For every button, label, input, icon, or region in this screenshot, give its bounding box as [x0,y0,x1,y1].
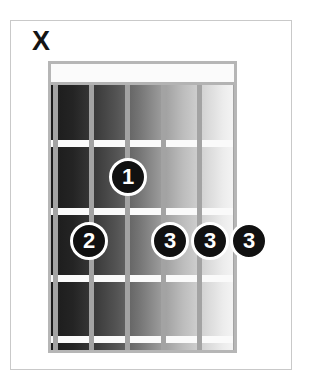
fret-line-2 [51,208,234,215]
string-line-6 [233,85,237,350]
fretboard [48,61,237,353]
finger-dot-string5-fret3[interactable]: 3 [191,222,229,260]
nut [51,64,234,85]
string-line-1 [53,85,58,350]
fret-line-3 [51,275,234,282]
fret-line-1 [51,140,234,147]
string-line-4 [161,85,166,350]
string-mute-marker-x: X [28,26,54,56]
string-line-3 [125,85,130,350]
finger-dot-string2-fret3[interactable]: 2 [70,222,108,260]
fretboard-surface [51,85,234,350]
finger-dot-string6-fret3[interactable]: 3 [230,222,268,260]
chord-diagram-stage: X 1 2 3 3 3 [0,0,309,391]
fret-line-4 [51,336,234,343]
string-line-5 [197,85,202,350]
finger-dot-string3-fret2[interactable]: 1 [109,158,147,196]
string-line-2 [89,85,94,350]
finger-dot-string4-fret3[interactable]: 3 [151,222,189,260]
